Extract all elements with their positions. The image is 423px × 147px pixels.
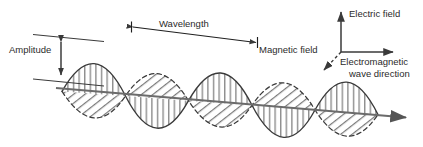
electric-field-legend-label: Electric field — [349, 8, 400, 19]
wave-direction-legend-label-line1: Electromagnetic — [340, 56, 408, 67]
magnetic-field-label: Magnetic field — [259, 44, 318, 55]
wavelength-arrow — [133, 27, 256, 43]
wave-direction-legend-label-line2: wave direction — [348, 68, 410, 79]
amplitude-label: Amplitude — [9, 44, 51, 55]
wavelength-label: Wavelength — [159, 18, 209, 29]
amplitude-guide-top — [33, 35, 104, 42]
magnetic-field-axis-arrow — [324, 52, 341, 70]
em-wave-diagram: Amplitude Wavelength Magnetic field Elec… — [0, 0, 423, 147]
